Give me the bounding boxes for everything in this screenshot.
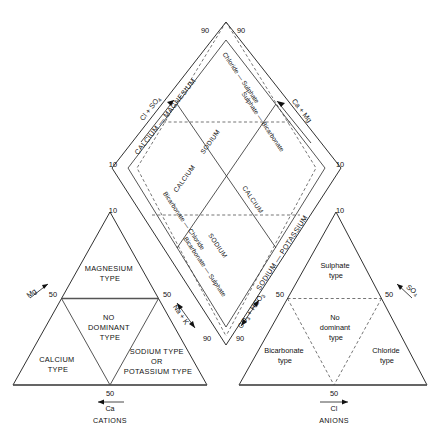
axis-label-mg-diamond: Mg [301, 111, 314, 124]
arrow-head-ca-bottom [98, 400, 104, 405]
axis-ca-bottom: Ca [98, 400, 124, 414]
diamond-label-calcium-top: CALCIUM [172, 164, 196, 194]
anions-tick-bottom: 50 [330, 389, 338, 398]
diamond-label-calcium-right: CALCIUM [241, 184, 265, 214]
axis-label-mg: Mg [25, 286, 38, 299]
diamond-panel: 90 90 10 10 10 10 90 90 CALCIUM — MAGNES… [109, 22, 344, 345]
axis-label-ca-bottom: Ca [105, 404, 114, 413]
cations-field-calcium: CALCIUM TYPE [39, 355, 77, 374]
arrow-head-cl-bottom [342, 400, 348, 405]
diamond-tick-top-left: 90 [201, 26, 209, 35]
anions-divider-left [288, 299, 335, 386]
anions-field-bicarbonate: Bicarbonate type [264, 346, 306, 365]
diamond-tick-bottom-left: 90 [203, 334, 211, 343]
arrow-head-na-k-a [189, 321, 195, 328]
diamond-tick-left-upper: 10 [109, 160, 117, 169]
diamond-outline [112, 22, 341, 345]
anions-caption: ANIONS [319, 416, 349, 425]
anions-field-sulphate: Sulphate type [320, 261, 351, 280]
axis-label-cl-bottom: Cl [331, 404, 338, 413]
anions-tick-right: 50 [385, 290, 393, 299]
diamond-tick-left-lower: 10 [109, 206, 117, 215]
svg-text:SO4: SO4 [404, 282, 420, 298]
anions-field-chloride: Chloride type [372, 346, 402, 365]
diamond-band-sodium-potassium: SODIUM — POTASSIUM [254, 213, 309, 292]
axis-ca-mg: Ca+Mg [277, 97, 314, 143]
axis-cl-bottom: Cl [320, 400, 348, 414]
anions-triangle-panel: Sulphate type No dominant type Bicarbona… [239, 212, 427, 425]
cations-tick-bottom: 50 [106, 389, 114, 398]
cations-caption: CATIONS [93, 416, 127, 425]
diamond-band-bicarbonate-chloride: Bicarbonate — Chloride [162, 190, 207, 251]
axis-na-k: Na+K [171, 303, 195, 328]
cations-tick-right: 50 [163, 290, 171, 299]
diamond-label-sodium-top: SODIUM [199, 128, 221, 155]
anions-tick-left: 50 [276, 290, 284, 299]
diamond-tick-top-right: 90 [237, 26, 245, 35]
cations-tick-left: 50 [49, 290, 57, 299]
cations-field-magnesium: MAGNESIUM TYPE [85, 264, 136, 283]
cations-field-no-dominant: NO DOMINANT TYPE [88, 313, 132, 342]
svg-text:Na+K: Na+K [171, 303, 191, 327]
axis-mg: Mg [25, 284, 48, 300]
diamond-tick-right-upper: 10 [336, 160, 344, 169]
cations-triangle-panel: MAGNESIUM TYPE NO DOMINANT TYPE CALCIUM … [13, 212, 207, 425]
diamond-label-sodium-bottom: SODIUM [207, 232, 229, 259]
piper-diagram: 90 90 10 10 10 10 90 90 CALCIUM — MAGNES… [0, 0, 440, 429]
axis-co3-hco3: CO3+HCO3 [236, 291, 267, 330]
cations-field-sodium-potassium: SODIUM TYPE OR POTASSIUM TYPE [124, 347, 192, 376]
svg-text:Ca+Mg: Ca+Mg [290, 97, 314, 124]
axis-so4: SO4 [397, 282, 421, 298]
diamond-tick-bottom-right: 90 [236, 334, 244, 343]
anions-field-no-dominant: No dominant type [320, 313, 352, 342]
